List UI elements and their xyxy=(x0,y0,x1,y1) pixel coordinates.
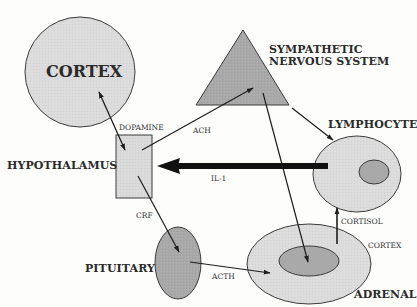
cortex-label: CORTEX xyxy=(46,64,122,80)
sns-label-line1: SYMPATHETIC xyxy=(269,44,363,55)
crf-label: CRF xyxy=(136,212,153,220)
adrenal-medulla xyxy=(279,246,339,276)
edge-hypothalamus-sns xyxy=(142,88,253,150)
cortisol-label: CORTISOL xyxy=(341,218,383,226)
edge-sns-lymphocyte xyxy=(292,108,333,140)
lymphocyte-nucleus xyxy=(359,160,389,184)
adrenal-node xyxy=(247,224,371,304)
adrenal-cortex-label: CORTEX xyxy=(368,242,401,250)
neuroimmune-diagram: CORTEX SYMPATHETIC NERVOUS SYSTEM HYPOTH… xyxy=(0,0,417,307)
il1-label: IL-1 xyxy=(211,175,226,183)
sns-label-line2: NERVOUS SYSTEM xyxy=(269,56,389,67)
pituitary-label: PITUITARY xyxy=(85,263,155,274)
adrenal-label: ADRENAL xyxy=(354,289,417,300)
dopamine-label: DOPAMINE xyxy=(119,124,164,132)
lymphocyte-label: LYMPHOCYTE xyxy=(328,119,417,130)
ach-label: ACH xyxy=(193,127,211,135)
lymphocyte-node xyxy=(313,136,401,212)
hypothalamus-node xyxy=(116,135,152,198)
hypothalamus-label: HYPOTHALAMUS xyxy=(7,160,117,171)
edge-lymphocyte-hypothalamus-il1 xyxy=(157,158,328,174)
acth-label: ACTH xyxy=(212,273,235,281)
